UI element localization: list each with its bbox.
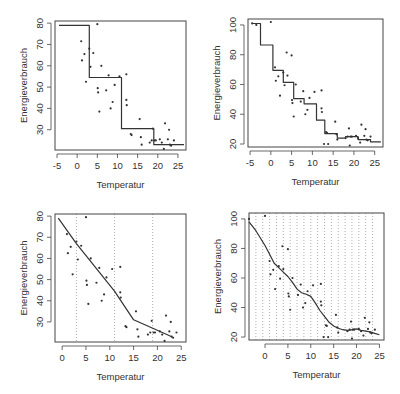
plot-frame <box>248 19 383 147</box>
x-tick-label: 25 <box>374 350 385 361</box>
data-point <box>119 291 121 293</box>
data-point <box>369 135 371 137</box>
data-point <box>173 139 175 141</box>
data-point <box>168 330 170 332</box>
x-tick-label: 0 <box>262 350 267 361</box>
data-point <box>304 302 306 304</box>
data-point <box>161 333 163 335</box>
data-point <box>313 91 315 93</box>
y-axis-title: Energieverbrauch <box>18 241 29 316</box>
x-tick-label: 25 <box>176 352 187 363</box>
data-point <box>149 141 151 143</box>
data-point <box>320 304 322 306</box>
x-tick-label: 0 <box>59 352 64 363</box>
data-point <box>300 101 302 103</box>
data-point <box>287 248 289 250</box>
y-tick-label: 100 <box>228 211 239 227</box>
data-point <box>286 74 288 76</box>
data-point <box>320 89 322 91</box>
data-point <box>83 53 85 55</box>
x-tick-label: 15 <box>328 350 339 361</box>
x-tick-label: 5 <box>285 350 290 361</box>
x-tick-label: 10 <box>305 350 316 361</box>
y-axis-title: Energieverbrauch <box>211 46 222 121</box>
data-point <box>293 115 295 117</box>
x-axis: -50510152025Temperatur <box>246 151 380 187</box>
data-point <box>101 300 103 302</box>
data-point <box>326 325 328 327</box>
data-point <box>80 245 82 247</box>
data-point <box>322 336 324 338</box>
x-axis-title: Temperatur <box>96 371 144 382</box>
x-tick-label: 0 <box>268 157 273 168</box>
data-point <box>72 273 74 275</box>
plot-top-right: -50510152025Temperatur20406080100Energie… <box>211 17 383 187</box>
data-point <box>85 216 87 218</box>
data-point <box>140 136 142 138</box>
x-tick-label: 5 <box>289 157 294 168</box>
data-point <box>125 326 127 328</box>
data-point <box>291 102 293 104</box>
data-point <box>110 107 112 109</box>
data-point <box>136 328 138 330</box>
y-tick-label: 50 <box>34 274 45 285</box>
data-point <box>264 215 266 217</box>
data-point <box>154 331 156 333</box>
x-axis: 0510152025Temperatur <box>262 344 384 380</box>
data-point <box>283 84 285 86</box>
y-tick-label: 30 <box>34 124 45 135</box>
data-point <box>295 83 297 85</box>
data-point <box>282 268 284 270</box>
y-tick-label: 40 <box>34 103 45 114</box>
x-tick-label: 25 <box>369 157 380 168</box>
data-point <box>151 139 153 141</box>
data-point <box>112 101 114 103</box>
data-point <box>268 260 270 262</box>
data-point <box>125 99 127 101</box>
data-point <box>67 252 69 254</box>
data-point <box>274 288 276 290</box>
x-tick-label: 0 <box>75 160 80 171</box>
data-point <box>277 75 279 77</box>
data-point <box>125 73 127 75</box>
data-point <box>119 266 121 268</box>
data-point <box>274 66 276 68</box>
data-point <box>141 144 143 146</box>
data-point <box>368 321 370 323</box>
data-point <box>279 278 281 280</box>
data-point <box>98 111 100 113</box>
data-point <box>137 336 139 338</box>
data-point <box>175 331 177 333</box>
data-point <box>302 306 304 308</box>
data-point <box>147 333 149 335</box>
data-point <box>291 277 293 279</box>
data-point <box>77 258 79 260</box>
x-tick-label: 10 <box>104 352 115 363</box>
data-points <box>66 216 178 342</box>
data-point <box>337 332 339 334</box>
x-axis: -50510152025Temperatur <box>53 154 183 190</box>
x-tick-label: 10 <box>307 157 318 168</box>
y-axis: 304050607080Energieverbrauch <box>18 211 51 327</box>
data-point <box>103 293 105 295</box>
data-point <box>359 141 361 143</box>
y-tick-label: 80 <box>34 211 45 222</box>
data-point <box>275 80 277 82</box>
data-point <box>163 340 165 342</box>
plot-top-left: -50510152025Temperatur304050607080Energi… <box>18 18 186 190</box>
data-point <box>164 122 166 124</box>
data-point <box>111 268 113 270</box>
data-point <box>86 284 88 286</box>
data-point <box>149 331 151 333</box>
x-tick-label: 20 <box>152 352 163 363</box>
y-axis-title: Energieverbrauch <box>212 239 223 314</box>
data-point <box>163 148 165 150</box>
data-point <box>105 276 107 278</box>
data-point <box>161 141 163 143</box>
chart-canvas: -50510152025Temperatur304050607080Energi… <box>0 0 400 394</box>
x-tick-label: -5 <box>246 157 254 168</box>
data-point <box>97 91 99 93</box>
data-point <box>306 290 308 292</box>
y-tick-label: 100 <box>227 17 238 33</box>
data-point <box>291 99 293 101</box>
